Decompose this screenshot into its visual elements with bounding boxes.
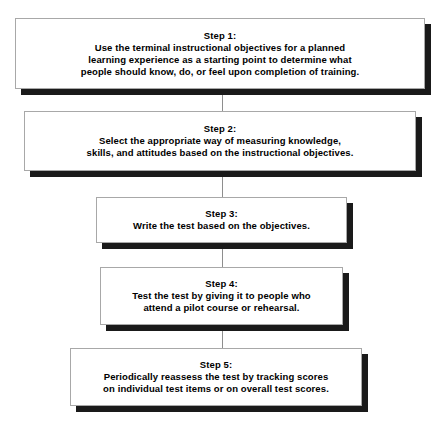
step-4-text: Step 4: Test the test by giving it to pe…	[101, 278, 342, 315]
step-3-line-1: Write the test based on the objectives.	[103, 220, 340, 232]
step-1-text: Step 1: Use the terminal instructional o…	[16, 29, 424, 78]
step-3-text: Step 3: Write the test based on the obje…	[97, 208, 346, 232]
step-4-line-2: attend a pilot course or rehearsal.	[107, 302, 336, 314]
step-5-title: Step 5:	[77, 359, 355, 371]
flowchart-diagram: Step 1: Use the terminal instructional o…	[0, 0, 445, 426]
step-4-line-1: Test the test by giving it to people who	[107, 290, 336, 302]
step-3-title: Step 3:	[103, 208, 340, 220]
step-5-box[interactable]: Step 5: Periodically reassess the test b…	[70, 348, 362, 406]
step-1-title: Step 1:	[22, 29, 418, 41]
step-1-line-2: learning experience as a starting point …	[22, 54, 418, 66]
step-2-line-1: Select the appropriate way of measuring …	[31, 135, 409, 147]
step-1-line-1: Use the terminal instructional objective…	[22, 41, 418, 53]
step-2-text: Step 2: Select the appropriate way of me…	[25, 123, 415, 160]
step-4-title: Step 4:	[107, 278, 336, 290]
step-5-line-1: Periodically reassess the test by tracki…	[77, 371, 355, 383]
step-1-box[interactable]: Step 1: Use the terminal instructional o…	[15, 18, 425, 89]
step-2-title: Step 2:	[31, 123, 409, 135]
step-2-line-2: skills, and attitudes based on the instr…	[31, 147, 409, 159]
step-3-box[interactable]: Step 3: Write the test based on the obje…	[96, 197, 347, 243]
step-5-text: Step 5: Periodically reassess the test b…	[71, 359, 361, 396]
step-5-line-2: on individual test items or on overall t…	[77, 383, 355, 395]
step-4-box[interactable]: Step 4: Test the test by giving it to pe…	[100, 267, 343, 325]
step-1-line-3: people should know, do, or feel upon com…	[22, 66, 418, 78]
step-2-box[interactable]: Step 2: Select the appropriate way of me…	[24, 111, 416, 171]
